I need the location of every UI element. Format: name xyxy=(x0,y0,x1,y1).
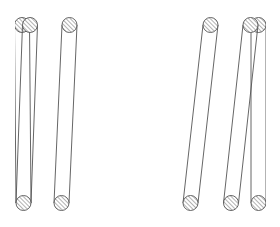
wire-bottom-section-icon xyxy=(54,196,69,211)
wire-top-section-icon xyxy=(62,18,77,33)
wire-top-section-icon xyxy=(243,18,258,33)
wire-left-edge xyxy=(54,25,62,203)
wire-bottom-section-icon xyxy=(16,196,31,211)
wire-bottom-section-icon xyxy=(224,196,239,211)
wire-right-edge xyxy=(239,25,259,203)
wire-right-edge xyxy=(69,25,77,203)
wire-left-b xyxy=(54,18,77,211)
wire-group xyxy=(15,18,267,211)
diagram-canvas xyxy=(0,0,280,227)
wire-right-edge xyxy=(198,25,218,203)
wire-left-edge xyxy=(183,25,203,203)
wire-right-edge xyxy=(30,25,32,203)
wire-left-edge xyxy=(15,25,17,203)
wire-right-partial xyxy=(251,18,266,211)
coil-winding-diagram xyxy=(0,0,280,227)
wire-left-a xyxy=(16,18,38,211)
wire-left-edge xyxy=(16,25,23,203)
wire-right-a xyxy=(183,18,218,211)
wire-right-b xyxy=(224,18,259,211)
wire-bottom-section-icon xyxy=(251,196,266,211)
wire-left-edge xyxy=(224,25,244,203)
wire-bottom-section-icon xyxy=(183,196,198,211)
wire-top-section-icon xyxy=(23,18,38,33)
wire-top-section-icon xyxy=(203,18,218,33)
wire-right-edge xyxy=(31,25,38,203)
